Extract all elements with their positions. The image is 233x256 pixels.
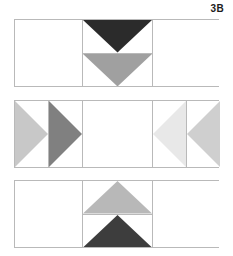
cell-2-1 [15, 101, 49, 167]
triangle-down-gray-icon [83, 54, 152, 87]
panel-bottom [14, 180, 219, 248]
triangle-up-light-icon [83, 181, 152, 214]
cell-1-2 [83, 20, 153, 86]
panel-middle [14, 100, 219, 168]
triangle-up-dark-icon [83, 215, 152, 248]
triangle-down-shape [83, 20, 152, 53]
triangle-left-lightest-icon [153, 101, 186, 167]
cell-2-5 [187, 101, 220, 167]
cell-3-2 [83, 181, 153, 247]
triangle-left-shape [153, 101, 186, 167]
triangle-right-shape [49, 101, 82, 167]
subcell-3-2-top [83, 181, 152, 215]
cell-3-1 [15, 181, 83, 247]
triangle-left-shape [187, 101, 220, 167]
cell-3-3 [153, 181, 220, 247]
cell-1-3 [153, 20, 220, 86]
subcell-1-2-top [83, 20, 152, 54]
cell-2-2 [49, 101, 83, 167]
triangle-down-dark-icon [83, 20, 152, 53]
cell-1-1 [15, 20, 83, 86]
subcell-1-2-bottom [83, 54, 152, 87]
triangle-up-shape [83, 181, 152, 214]
triangle-left-light-icon [187, 101, 220, 167]
cell-2-4 [153, 101, 187, 167]
figure-label: 3B [211, 4, 224, 14]
triangle-right-light-icon [15, 101, 48, 167]
triangle-right-shape [15, 101, 48, 167]
cell-2-3 [83, 101, 153, 167]
triangle-down-shape [83, 54, 152, 87]
panel-top [14, 19, 219, 87]
subcell-3-2-bottom [83, 215, 152, 248]
triangle-right-dark-icon [49, 101, 82, 167]
figure-canvas: 3B [0, 0, 233, 256]
triangle-up-shape [83, 215, 152, 248]
